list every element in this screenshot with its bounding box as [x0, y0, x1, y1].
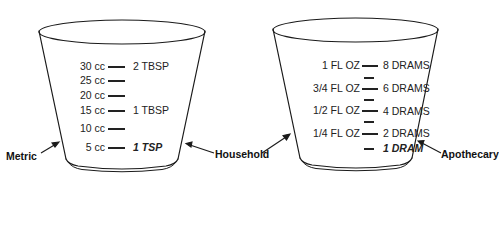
apothecary-label: 4 DRAMS [383, 105, 430, 117]
callout-apothecary: Apothecary [441, 148, 499, 160]
household-left-arrow-icon [186, 142, 214, 153]
graduation-mark [108, 147, 125, 149]
household-label: 3/4 FL OZ [295, 82, 360, 94]
apothecary-label: 2 DRAMS [383, 127, 430, 139]
graduation-mark [362, 133, 378, 135]
household-label: 2 TBSP [133, 60, 169, 72]
metric-label: 30 cc [66, 60, 105, 72]
graduation-mark [362, 110, 378, 112]
graduation-mark [108, 110, 125, 112]
apothecary-label: 8 DRAMS [383, 59, 430, 71]
apothecary-label: 6 DRAMS [383, 82, 430, 94]
graduation-mark-minor [364, 77, 374, 79]
graduation-mark [108, 80, 125, 82]
graduation-mark-minor [364, 121, 374, 123]
metric-label: 5 cc [66, 141, 105, 153]
graduation-mark [362, 65, 378, 67]
metric-arrow-icon [41, 142, 59, 153]
apothecary-label-emphasis: 1 DRAM [383, 142, 423, 154]
household-label-emphasis: 1 TSP [133, 141, 162, 153]
metric-label: 10 cc [66, 122, 105, 134]
metric-label: 20 cc [66, 89, 105, 101]
metric-label: 15 cc [66, 104, 105, 116]
callout-household: Household [215, 148, 269, 160]
graduation-mark [362, 88, 378, 90]
household-label: 1 TBSP [133, 104, 169, 116]
graduation-mark [108, 66, 125, 68]
graduation-mark-minor [364, 148, 374, 150]
graduation-mark-minor [364, 99, 374, 101]
household-label: 1/2 FL OZ [295, 104, 360, 116]
household-label: 1/4 FL OZ [295, 127, 360, 139]
callout-metric: Metric [6, 150, 37, 162]
metric-label: 25 cc [66, 74, 105, 86]
household-label: 1 FL OZ [295, 59, 360, 71]
graduation-mark [108, 95, 125, 97]
graduation-mark [108, 128, 125, 130]
